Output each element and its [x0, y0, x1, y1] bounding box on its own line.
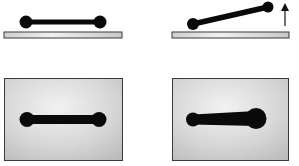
panel-side-tilted	[172, 2, 289, 39]
diagram-figure	[0, 0, 299, 166]
panel-side-level	[4, 16, 122, 39]
dumbbell-tilted	[187, 2, 274, 31]
plate	[172, 32, 289, 38]
arrow-up-icon	[281, 3, 289, 26]
panel-top-symmetric	[5, 79, 123, 161]
dumbbell-level	[20, 16, 107, 29]
panel-top-asymmetric	[173, 79, 289, 161]
plate	[4, 32, 122, 38]
